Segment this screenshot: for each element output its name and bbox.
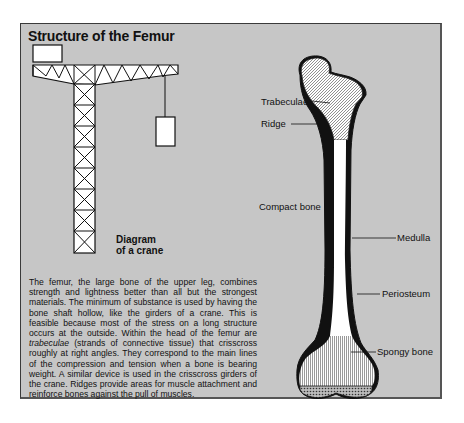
- label-medulla: Medulla: [397, 232, 430, 243]
- crane-caption-line1: Diagram: [116, 234, 163, 245]
- body-text-italic: trabeculae: [29, 338, 69, 348]
- label-spongy-bone: Spongy bone: [377, 346, 433, 357]
- body-text-part1: The femur, the large bone of the upper l…: [29, 277, 257, 338]
- label-compact-bone: Compact bone: [259, 201, 321, 212]
- crane-diagram: [33, 45, 178, 253]
- crane-counterweight: [33, 45, 62, 62]
- label-ridge: Ridge: [261, 118, 286, 129]
- crane-caption: Diagram of a crane: [116, 234, 163, 256]
- crane-load: [156, 117, 175, 146]
- crane-caption-line2: of a crane: [116, 245, 163, 256]
- body-paragraph: The femur, the large bone of the upper l…: [29, 277, 257, 399]
- femur-diagram: [297, 56, 379, 399]
- label-trabeculae: Trabeculae: [261, 96, 308, 107]
- label-periosteum: Periosteum: [382, 288, 430, 299]
